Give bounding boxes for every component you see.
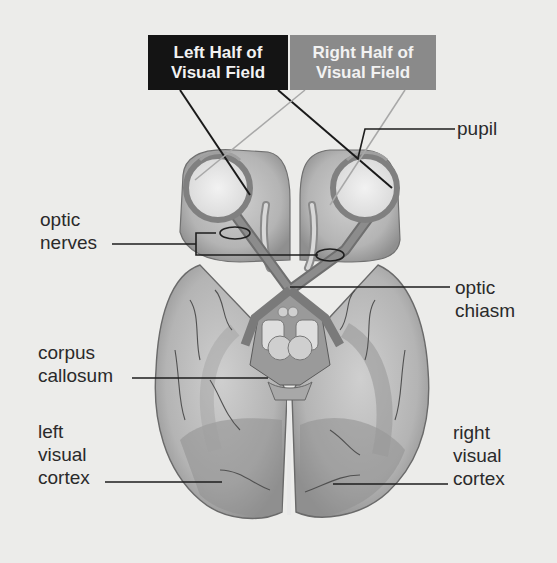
label-corpus-callosum-line2: callosum (38, 364, 113, 387)
label-pupil: pupil (457, 117, 497, 140)
label-right-visual-cortex-line1: right (453, 421, 505, 444)
label-right-visual-cortex-line2: visual (453, 444, 505, 467)
label-left-visual-cortex-line3: cortex (38, 466, 90, 489)
right-visual-field-box: Right Half of Visual Field (290, 35, 436, 90)
label-optic-nerves-line1: optic (40, 208, 97, 231)
label-optic-nerves: optic nerves (40, 208, 97, 254)
label-optic-chiasm-line2: chiasm (455, 299, 515, 322)
visual-pathway-diagram: Left Half of Visual Field Right Half of … (0, 0, 557, 563)
label-left-visual-cortex-line1: left (38, 420, 90, 443)
label-right-visual-cortex-line3: cortex (453, 467, 505, 490)
label-corpus-callosum: corpus callosum (38, 341, 113, 387)
label-optic-nerves-line2: nerves (40, 231, 97, 254)
right-visual-field-line1: Right Half of (290, 43, 436, 63)
left-visual-field-box: Left Half of Visual Field (148, 35, 288, 90)
left-visual-field-line2: Visual Field (148, 63, 288, 83)
label-left-visual-cortex-line2: visual (38, 443, 90, 466)
left-eye (186, 153, 250, 221)
right-visual-field-line2: Visual Field (290, 63, 436, 83)
label-optic-chiasm-line1: optic (455, 276, 515, 299)
label-optic-chiasm: optic chiasm (455, 276, 515, 322)
label-corpus-callosum-line1: corpus (38, 341, 113, 364)
label-left-visual-cortex: left visual cortex (38, 420, 90, 489)
left-visual-field-line1: Left Half of (148, 43, 288, 63)
label-right-visual-cortex: right visual cortex (453, 421, 505, 490)
label-pupil-line1: pupil (457, 117, 497, 140)
